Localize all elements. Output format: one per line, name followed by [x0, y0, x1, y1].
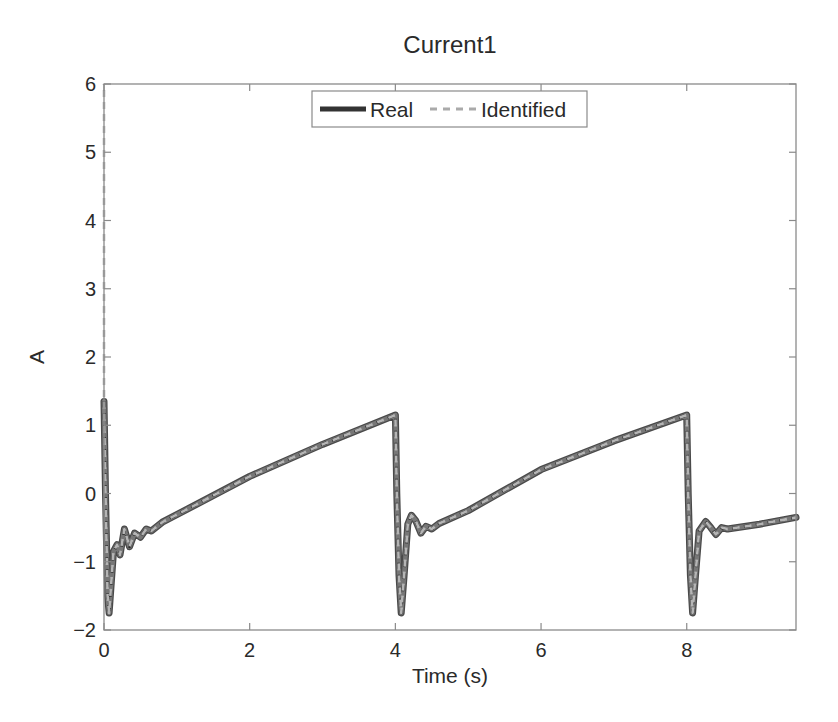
x-tick-label: 8: [681, 639, 692, 661]
y-tick-label: −1: [73, 551, 96, 573]
y-tick-label: 3: [85, 278, 96, 300]
y-tick-label: −2: [73, 619, 96, 641]
y-tick-label: 1: [85, 414, 96, 436]
y-axis-label: A: [25, 350, 48, 364]
x-tick-label: 6: [535, 639, 546, 661]
legend-identified-label: Identified: [481, 98, 566, 121]
y-tick-label: 6: [85, 73, 96, 95]
y-tick-label: 2: [85, 346, 96, 368]
y-tick-label: 0: [85, 483, 96, 505]
legend-real-label: Real: [370, 98, 413, 121]
x-tick-label: 2: [244, 639, 255, 661]
x-tick-label: 0: [98, 639, 109, 661]
legend: Real Identified: [312, 91, 587, 127]
x-axis-label: Time (s): [412, 664, 488, 687]
y-tick-label: 4: [85, 210, 96, 232]
chart-title: Current1: [403, 31, 496, 58]
chart: Current1 02468 −2−10123456 Time (s) A Re…: [0, 0, 838, 722]
x-tick-label: 4: [390, 639, 401, 661]
y-tick-label: 5: [85, 141, 96, 163]
